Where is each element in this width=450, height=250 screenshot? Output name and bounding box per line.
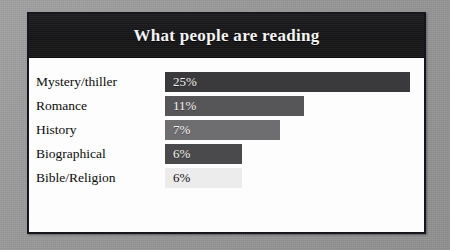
bar-chart-plot-area: Mystery/thiller25%Romance11%History7%Bio…	[29, 58, 424, 233]
bar-value-label: 6%	[173, 168, 190, 188]
bar-row: Mystery/thiller25%	[29, 72, 424, 92]
page-title: What people are reading	[133, 26, 319, 46]
bar-fill: 7%	[165, 120, 280, 140]
chart-header: What people are reading	[29, 14, 424, 58]
bar-category-label: Bible/Religion	[36, 168, 116, 188]
bar-row: Biographical6%	[29, 144, 424, 164]
bar-row: History7%	[29, 120, 424, 140]
bar-row: Romance11%	[29, 96, 424, 116]
bar-category-label: Biographical	[36, 144, 106, 164]
bar-fill: 11%	[165, 96, 304, 116]
bar-track: 7%	[165, 120, 280, 140]
bar-value-label: 7%	[173, 120, 190, 140]
bar-track: 6%	[165, 144, 242, 164]
bar-category-label: History	[36, 120, 77, 140]
bar-track: 25%	[165, 72, 410, 92]
bar-track: 11%	[165, 96, 304, 116]
bar-fill: 25%	[165, 72, 410, 92]
bar-value-label: 6%	[173, 144, 190, 164]
bar-fill: 6%	[165, 168, 242, 188]
bar-category-label: Romance	[36, 96, 87, 116]
bar-category-label: Mystery/thiller	[36, 72, 117, 92]
bar-fill: 6%	[165, 144, 242, 164]
bar-row: Bible/Religion6%	[29, 168, 424, 188]
bar-track: 6%	[165, 168, 242, 188]
chart-card: What people are reading Mystery/thiller2…	[27, 12, 426, 234]
bar-value-label: 11%	[173, 96, 196, 116]
bar-value-label: 25%	[173, 72, 197, 92]
